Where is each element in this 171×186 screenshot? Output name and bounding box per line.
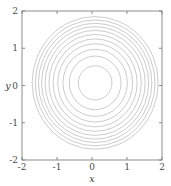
x-tick-label: -1 (53, 162, 62, 172)
x-tick-label: 1 (124, 162, 130, 172)
y-tick-label: -2 (9, 155, 18, 165)
y-axis-label: y (4, 80, 11, 91)
y-tick-label: 2 (12, 6, 18, 16)
plot-canvas: -2-1012 -2-1012 x y (0, 0, 171, 186)
x-tick-label: 2 (159, 162, 165, 172)
x-tick-labels: -2-1012 (18, 162, 165, 172)
y-tick-label: 0 (12, 81, 18, 91)
contour-plot-figure: -2-1012 -2-1012 x y (0, 0, 171, 186)
y-tick-label: -1 (9, 118, 18, 128)
x-tick-label: 0 (89, 162, 95, 172)
x-axis-label: x (89, 173, 95, 184)
x-tick-label: -2 (18, 162, 27, 172)
y-tick-label: 1 (12, 43, 18, 53)
